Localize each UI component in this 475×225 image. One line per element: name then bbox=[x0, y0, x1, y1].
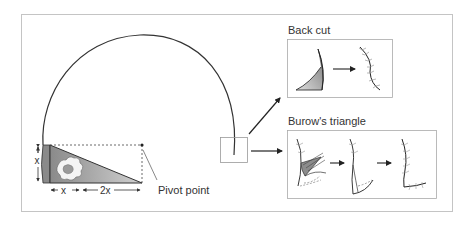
pivot-leader bbox=[143, 150, 157, 180]
dimension-x-horizontal: x bbox=[51, 185, 79, 196]
dimension-2x: 2x bbox=[83, 185, 140, 196]
svg-text:2x: 2x bbox=[100, 185, 111, 196]
svg-text:x: x bbox=[61, 185, 66, 196]
rotation-arc bbox=[43, 35, 235, 155]
burow-panel bbox=[288, 131, 437, 199]
arrow-to-back-cut bbox=[249, 98, 280, 134]
pivot-point-dot bbox=[140, 143, 143, 146]
burow-step-2-advanced bbox=[349, 139, 373, 194]
flap-triangle bbox=[42, 145, 143, 183]
svg-text:x: x bbox=[35, 155, 40, 166]
burow-step-3-sutured bbox=[401, 139, 426, 190]
back-cut-title: Back cut bbox=[288, 24, 330, 36]
rotation-flap-diagram: Pivot point x x 2x Back cut bbox=[0, 0, 475, 225]
pivot-point-label: Pivot point bbox=[158, 184, 209, 196]
sutured-line-icon bbox=[359, 47, 380, 90]
burow-step-1-flap bbox=[296, 139, 326, 186]
back-cut-panel bbox=[288, 40, 393, 98]
burow-title: Burow's triangle bbox=[288, 115, 366, 127]
dimension-x-vertical: x bbox=[35, 147, 40, 181]
